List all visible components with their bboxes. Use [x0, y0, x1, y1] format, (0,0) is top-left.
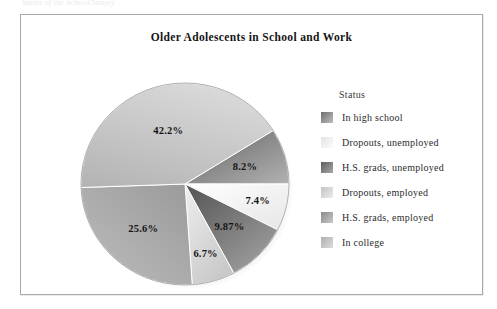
legend-item[interactable]: In high school — [321, 109, 497, 125]
legend: Status In high schoolDropouts, unemploye… — [321, 89, 497, 259]
pie-slice-label: 9.87% — [215, 221, 245, 232]
legend-item-label: H.S. grads, employed — [342, 212, 433, 223]
pie-chart-svg: 8.2%7.4%9.87%6.7%25.6%42.2% — [57, 57, 309, 289]
pie-slice-label: 25.6% — [128, 223, 158, 234]
legend-item-label: In high school — [342, 112, 403, 123]
pie-chart: 8.2%7.4%9.87%6.7%25.6%42.2% — [57, 57, 309, 289]
legend-item[interactable]: In college — [321, 234, 497, 250]
pie-slice-group — [81, 83, 289, 285]
legend-item-label: Dropouts, employed — [342, 187, 428, 198]
legend-swatch-icon — [321, 237, 333, 248]
legend-item-label: H.S. grads, unemployed — [342, 162, 444, 173]
pie-slice-label: 42.2% — [153, 125, 183, 136]
legend-item-label: Dropouts, unemployed — [342, 137, 439, 148]
pie-slice-label: 7.4% — [246, 195, 270, 206]
legend-swatch-icon — [321, 137, 333, 148]
chart-frame: Older Adolescents in School and Work — [20, 14, 483, 295]
chart-title: Older Adolescents in School and Work — [21, 31, 482, 43]
legend-item[interactable]: Dropouts, employed — [321, 184, 497, 200]
legend-swatch-icon — [321, 187, 333, 198]
legend-item[interactable]: H.S. grads, unemployed — [321, 159, 497, 175]
legend-swatch-icon — [321, 212, 333, 223]
legend-item-label: In college — [342, 237, 384, 248]
scan-top-cropped-text: Status of the School/Sanjay — [22, 0, 242, 9]
pie-slice[interactable] — [81, 184, 192, 285]
legend-swatch-icon — [321, 112, 333, 123]
legend-title: Status — [339, 89, 497, 100]
legend-swatch-icon — [321, 162, 333, 173]
legend-item[interactable]: Dropouts, unemployed — [321, 134, 497, 150]
pie-slice-label: 8.2% — [233, 161, 257, 172]
legend-item[interactable]: H.S. grads, employed — [321, 209, 497, 225]
legend-items: In high schoolDropouts, unemployedH.S. g… — [321, 109, 497, 250]
pie-slice-label: 6.7% — [193, 248, 217, 259]
